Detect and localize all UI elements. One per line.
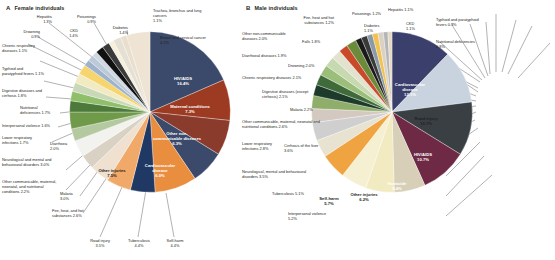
slice-label-cardiovascular-male: Cardiovascular disease12.1% [388, 82, 432, 97]
label-road-injury-female: Road injury3.5% [80, 239, 120, 249]
label-digestive-male: Digestive diseases (except cirrhosis) 2.… [262, 90, 320, 100]
slice-label-road-injury-male: Road injury10.7% [408, 116, 444, 126]
label-poisonings-male: Poisonings 1.2% [352, 12, 382, 17]
label-diabetes-male: Diabetes1.1% [364, 24, 390, 34]
label-other-communicable-female: Other communicable, maternal, neonatal, … [2, 180, 60, 194]
label-neuro-mental-female: Neurological and mental and behavioural … [2, 158, 64, 168]
label-diabetes-female: Diabetes1.4% [102, 26, 128, 36]
label-drowning-female: Drowning0.9% [8, 30, 40, 40]
label-chronic-respiratory-female: Chronic respiratory diseases 1.1% [2, 44, 36, 54]
label-fire-heat-female: Fire, heat, and hot substances 2.6% [52, 209, 96, 219]
label-typhoid-male: Typhoid and paratyphoid fevers 0.9% [436, 18, 480, 28]
label-other-communicable-male: Other communicable, maternal, neonatal a… [242, 120, 322, 130]
label-hepatitis-male: Hepatitis 1.1% [388, 8, 426, 13]
slice-label-other-ncd-female: Other non-communicable diseases6.3% [152, 131, 202, 146]
panel-b-title: Male individuals [254, 5, 297, 11]
slice-label-other-injuries-male: Other injuries6.2% [348, 192, 380, 202]
slice-label-hiv-aids-female: HIV/AIDS16.4% [160, 76, 206, 86]
label-lower-respiratory-female: Lower respiratory infections 1.7% [2, 136, 48, 146]
label-malaria-female: Malaria3.0% [60, 192, 86, 202]
slice-label-self-harm-male: Self-harm5.7% [314, 196, 344, 206]
label-interpersonal-violence-female: Interpersonal violence 1.6% [2, 124, 56, 129]
slice-label-cardiovascular-female: Cardiovascular disease6.0% [140, 163, 180, 178]
label-neuro-mental-male: Neurological, mental and behavioural dis… [242, 170, 322, 180]
panel-a-letter: A [6, 5, 10, 11]
label-typhoid-female: Typhoid and paratyphoid fevers 1.1% [2, 67, 44, 77]
label-interpersonal-violence-male: Interpersonal violence 5.2% [288, 212, 328, 222]
panel-male: B Male individuals [240, 0, 481, 260]
label-diarrhoea-female: Diarrhoea2.0% [50, 142, 78, 152]
label-drowning-male: Drowning 2.0% [288, 64, 320, 69]
label-tuberculosis-female: Tuberculosis4.4% [120, 239, 158, 249]
label-poisonings-female: Poisonings0.9% [64, 15, 96, 25]
label-malaria-male: Malaria 2.2% [290, 108, 322, 113]
panel-b-header: B Male individuals [246, 5, 298, 11]
slice-label-maternal-conditions-female: Maternal conditions7.3% [168, 104, 212, 114]
label-falls-male: Falls 1.8% [302, 40, 326, 45]
panel-a-title: Female individuals [14, 5, 64, 11]
panel-female: A Female individuals [0, 0, 240, 260]
label-diarrhoeal-male: Diarrhoeal diseases 1.9% [242, 54, 300, 59]
label-ckd-female: CKD1.4% [60, 29, 78, 39]
label-lower-respiratory-male: Lower respiratory infections 2.8% [242, 142, 276, 152]
label-hepatitis-female: Hepatitis1.3% [22, 15, 52, 25]
label-self-harm-female: Self-harm4.4% [158, 239, 192, 249]
label-nutritional-deficiencies-male: Nutritional deficiencies0.8% [436, 40, 476, 50]
label-ckd-male: CKD1.1% [406, 22, 424, 32]
label-nutritional-deficiencies-female: Nutritional deficiencies 1.7% [20, 106, 58, 116]
label-digestive-cirrhosis-female: Digestive diseases and cirrhosis 1.8% [2, 89, 44, 99]
slice-label-hiv-aids-male: HIV/AIDS10.7% [406, 152, 440, 162]
label-breast-cervical-cancer-female: Breast and cervical cancer4.2% [160, 36, 218, 46]
panel-a-header: A Female individuals [6, 5, 64, 11]
label-fire-heat-male: Fire, heat and hot substances 1.2% [284, 16, 334, 26]
slice-label-homicide-male: Homicide9.4% [380, 181, 414, 191]
slice-label-other-injuries-female: Other injuries7.5% [95, 168, 129, 178]
label-other-ncd-male: Other non-communicable diseases 2.0% [242, 32, 300, 42]
label-cirrhosis-male: Cirrhosis of the liver 3.6% [284, 144, 320, 154]
label-lung-cancers-female: Trachea, bronchus and lung cancers1.1% [153, 9, 211, 23]
label-chronic-respiratory-male: Chronic respiratory diseases 2.1% [242, 76, 314, 81]
label-tuberculosis-male: Tuberculosis 5.1% [272, 192, 316, 197]
panel-b-letter: B [246, 5, 250, 11]
